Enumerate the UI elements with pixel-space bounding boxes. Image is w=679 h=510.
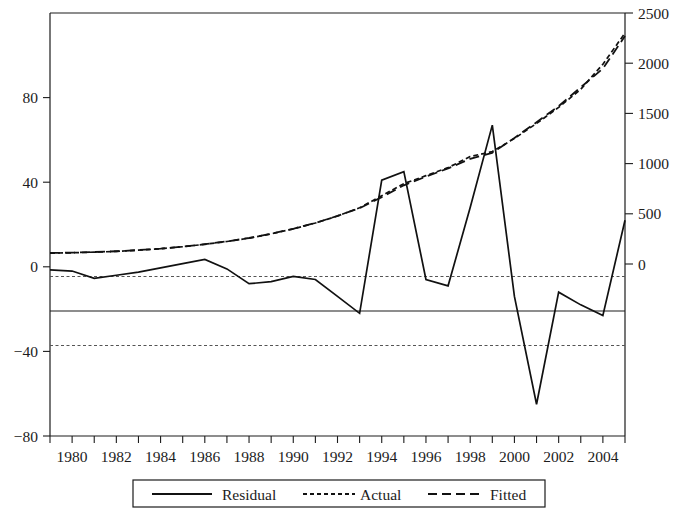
- right-tick-label-1000: 1000: [638, 155, 669, 172]
- left-axis-ticks: −80−4004080: [14, 89, 50, 444]
- left-tick-label-80: 80: [23, 89, 39, 106]
- series-line-fitted: [50, 36, 625, 253]
- legend-label-actual: Actual: [360, 486, 401, 503]
- x-tick-label-1984: 1984: [145, 448, 176, 465]
- series-line-residual: [50, 125, 625, 404]
- right-tick-label-2000: 2000: [638, 55, 669, 72]
- plot-frame: [50, 13, 625, 436]
- x-tick-label-2004: 2004: [587, 448, 618, 465]
- x-tick-label-1980: 1980: [57, 448, 88, 465]
- reference-lines: [50, 277, 625, 346]
- x-axis-ticks: [50, 436, 625, 443]
- chart-svg: −80−4004080 05001000150020002500 1980198…: [0, 0, 679, 510]
- residual-actual-fitted-chart: −80−4004080 05001000150020002500 1980198…: [0, 0, 679, 510]
- x-tick-label-1994: 1994: [366, 448, 397, 465]
- x-axis-tick-labels: 1980198219841986198819901992199419961998…: [57, 448, 619, 465]
- x-tick-label-1988: 1988: [234, 448, 265, 465]
- x-tick-label-1992: 1992: [322, 448, 353, 465]
- left-tick-label-0: 0: [30, 258, 38, 275]
- chart-legend: Residual Actual Fitted: [133, 480, 545, 507]
- right-tick-label-0: 0: [638, 256, 646, 273]
- left-tick-label-40: 40: [23, 174, 39, 191]
- x-tick-label-2000: 2000: [499, 448, 530, 465]
- right-tick-label-2500: 2500: [638, 5, 669, 22]
- left-tick-label--80: −80: [14, 428, 38, 445]
- x-tick-label-1986: 1986: [189, 448, 220, 465]
- x-tick-label-1998: 1998: [455, 448, 486, 465]
- right-tick-label-1500: 1500: [638, 105, 669, 122]
- x-tick-label-1982: 1982: [101, 448, 132, 465]
- series-layer: [50, 33, 625, 404]
- x-tick-label-1990: 1990: [278, 448, 309, 465]
- series-line-actual: [50, 33, 625, 253]
- right-axis-ticks: 05001000150020002500: [625, 5, 669, 273]
- x-tick-label-1996: 1996: [410, 448, 441, 465]
- x-tick-label-2002: 2002: [543, 448, 574, 465]
- legend-label-fitted: Fitted: [490, 486, 526, 503]
- legend-label-residual: Residual: [222, 486, 276, 503]
- right-tick-label-500: 500: [638, 205, 662, 222]
- left-tick-label--40: −40: [14, 343, 38, 360]
